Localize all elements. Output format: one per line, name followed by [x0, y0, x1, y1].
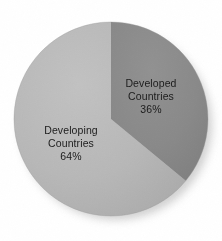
pie-chart-svg	[0, 0, 222, 241]
slice-label-developing-line1: Developing	[33, 124, 109, 137]
slice-label-developed-percent: 36%	[118, 103, 184, 116]
slice-label-developed-countries: Developed Countries 36%	[118, 77, 184, 117]
pie-chart-figure: Developed Countries 36% Developing Count…	[0, 0, 222, 241]
slice-label-developing-countries: Developing Countries 64%	[33, 124, 109, 164]
slice-label-developing-line2: Countries	[33, 137, 109, 150]
slice-label-developed-line2: Countries	[118, 90, 184, 103]
slice-label-developed-line1: Developed	[118, 77, 184, 90]
slice-label-developing-percent: 64%	[33, 150, 109, 163]
